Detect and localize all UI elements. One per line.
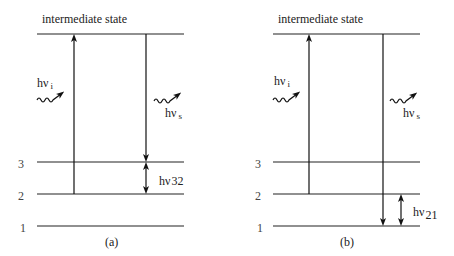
panel-b: intermediate state 3 2 1 hνi hνs hν21 (b… bbox=[255, 12, 437, 249]
raman-energy-diagram: intermediate state 3 2 1 hνi hνs hν32 (a… bbox=[0, 0, 454, 256]
scattered-wavy-photon-icon bbox=[154, 95, 178, 103]
level-2-label: 2 bbox=[18, 189, 24, 203]
incident-photon-label: hνi bbox=[274, 74, 290, 89]
scattered-wavy-photon-icon bbox=[390, 95, 414, 103]
scattered-photon-label: hνs bbox=[165, 106, 182, 121]
transition-label: hν32 bbox=[159, 174, 183, 188]
level-1-label: 1 bbox=[20, 221, 26, 235]
incident-wavy-photon-icon bbox=[273, 94, 297, 102]
level-3-label: 3 bbox=[255, 157, 261, 171]
panel-caption: (b) bbox=[340, 235, 354, 249]
level-3-label: 3 bbox=[18, 157, 24, 171]
panel-a: intermediate state 3 2 1 hνi hνs hν32 (a… bbox=[18, 12, 184, 249]
incident-wavy-photon-icon bbox=[37, 94, 61, 102]
panel-caption: (a) bbox=[105, 235, 118, 249]
scattered-photon-label: hνs bbox=[403, 106, 420, 121]
intermediate-state-label: intermediate state bbox=[42, 12, 127, 26]
incident-photon-label: hνi bbox=[37, 76, 53, 91]
level-2-label: 2 bbox=[255, 189, 261, 203]
level-1-label: 1 bbox=[257, 221, 263, 235]
transition-label: hν21 bbox=[413, 205, 437, 222]
intermediate-state-label: intermediate state bbox=[278, 12, 363, 26]
